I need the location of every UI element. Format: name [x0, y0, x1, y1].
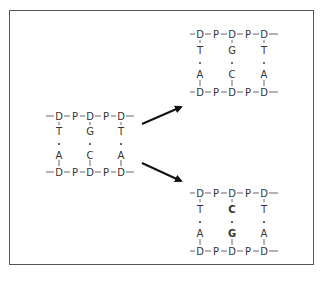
svg-text:D: D: [260, 87, 268, 98]
svg-text:D: D: [117, 111, 125, 122]
svg-text:D: D: [260, 246, 268, 257]
svg-text:P: P: [245, 246, 251, 257]
copy-bottom-dna-segment: D P D P D T C T A G A D P D P D: [190, 187, 278, 257]
svg-text:P: P: [103, 111, 109, 122]
svg-text:T: T: [55, 126, 63, 137]
svg-text:D: D: [228, 188, 236, 199]
svg-text:A: A: [197, 228, 204, 239]
svg-text:A: A: [118, 150, 125, 161]
svg-text:D: D: [196, 87, 204, 98]
mutated-base: C: [228, 204, 235, 215]
svg-text:D: D: [196, 188, 204, 199]
svg-text:G: G: [228, 45, 236, 56]
svg-text:D: D: [260, 188, 268, 199]
svg-text:D: D: [86, 167, 94, 178]
original-dna-segment: D P D P D T G T A C A D P D P D: [46, 110, 134, 178]
svg-text:P: P: [245, 188, 251, 199]
svg-text:D: D: [196, 246, 204, 257]
arrow-up-right-icon: [142, 107, 181, 124]
svg-text:G: G: [86, 126, 94, 137]
svg-text:P: P: [103, 167, 109, 178]
svg-text:T: T: [196, 204, 204, 215]
svg-text:D: D: [196, 29, 204, 40]
svg-text:C: C: [87, 150, 94, 161]
copy-bottom-bases: T C T A G A: [196, 204, 268, 239]
copy-top-dna-segment: D P D P D T G T A C A D P D P D: [190, 28, 278, 98]
svg-text:A: A: [197, 69, 204, 80]
svg-text:D: D: [86, 111, 94, 122]
svg-text:P: P: [245, 29, 251, 40]
svg-text:P: P: [72, 111, 78, 122]
svg-text:D: D: [117, 167, 125, 178]
svg-text:D: D: [228, 87, 236, 98]
svg-text:D: D: [228, 29, 236, 40]
svg-text:D: D: [55, 111, 63, 122]
svg-text:C: C: [229, 69, 236, 80]
svg-text:T: T: [196, 45, 204, 56]
mutated-base: G: [228, 228, 236, 239]
copy-top-bases: T G T A C A: [196, 45, 268, 80]
svg-text:T: T: [117, 126, 125, 137]
svg-text:D: D: [260, 29, 268, 40]
svg-text:P: P: [213, 246, 219, 257]
svg-text:T: T: [260, 204, 268, 215]
svg-text:D: D: [55, 167, 63, 178]
original-bases: T G T A C A: [55, 126, 125, 161]
svg-text:A: A: [261, 228, 268, 239]
svg-text:A: A: [56, 150, 63, 161]
svg-text:P: P: [213, 188, 219, 199]
svg-text:P: P: [245, 87, 251, 98]
svg-text:P: P: [213, 29, 219, 40]
svg-text:A: A: [261, 69, 268, 80]
arrow-down-right-icon: [142, 163, 181, 181]
svg-text:T: T: [260, 45, 268, 56]
svg-text:D: D: [228, 246, 236, 257]
svg-text:P: P: [72, 167, 78, 178]
dna-diagram: D P D P D T G T A C A D P D P D: [0, 0, 325, 283]
svg-text:P: P: [213, 87, 219, 98]
